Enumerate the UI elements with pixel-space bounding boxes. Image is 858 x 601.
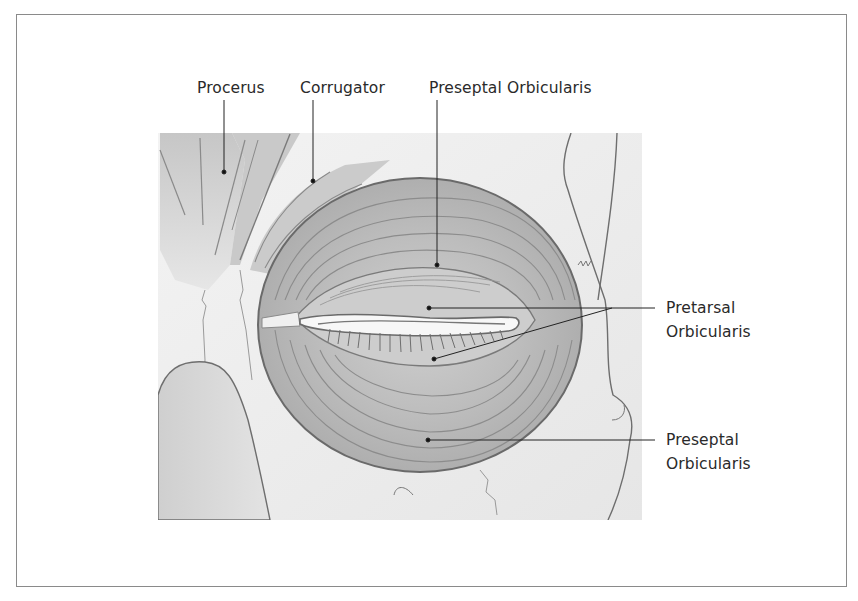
label-preseptal-bottom-line1: Preseptal	[666, 430, 739, 450]
label-preseptal-bottom-line2: Orbicularis	[666, 454, 751, 474]
label-corrugator: Corrugator	[300, 78, 385, 98]
label-preseptal-orbicularis-top: Preseptal Orbicularis	[429, 78, 592, 98]
label-pretarsal-line1: Pretarsal	[666, 298, 735, 318]
label-procerus: Procerus	[197, 78, 265, 98]
anatomy-drawing	[158, 133, 642, 520]
label-pretarsal-line2: Orbicularis	[666, 322, 751, 342]
